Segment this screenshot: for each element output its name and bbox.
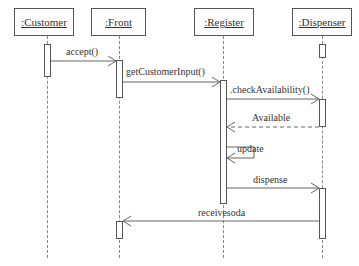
- message-available: Available: [252, 112, 290, 123]
- message-get-customer-input: getCustomerInput(): [126, 66, 205, 77]
- message-arrows: [0, 0, 359, 266]
- message-accept: accept(): [66, 46, 98, 57]
- message-update: update: [237, 143, 264, 154]
- message-receivesoda: receivesoda: [198, 207, 245, 218]
- message-dispense: dispense: [253, 174, 287, 185]
- message-check-availability: .checkAvailability(): [230, 84, 310, 95]
